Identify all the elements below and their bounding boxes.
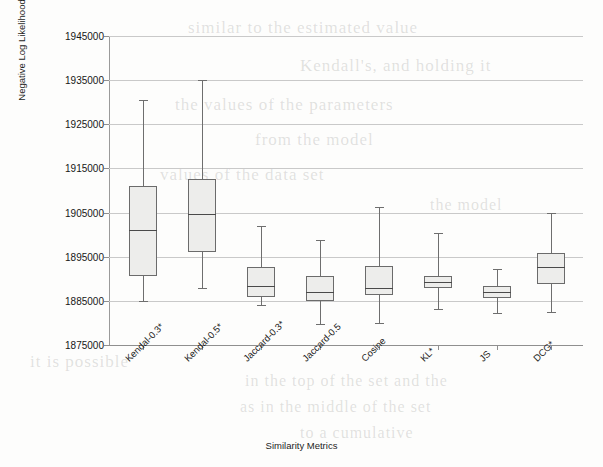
whisker-cap-lower [139, 301, 148, 302]
box-iqr-rect [247, 267, 275, 297]
box-iqr-rect [365, 266, 393, 295]
whisker-lower [551, 284, 552, 312]
x-axis-category-label: JS [477, 348, 493, 364]
whisker-upper [551, 213, 552, 253]
gridline [109, 80, 583, 81]
whisker-cap-lower [547, 312, 556, 313]
y-axis-tick-label: 1885000 [32, 295, 104, 306]
whisker-cap-upper [493, 269, 502, 270]
y-axis-tick-label: 1925000 [32, 119, 104, 130]
x-axis-category-label: Jaccard-0.5 [300, 321, 343, 364]
x-axis-category-label: Kendal-0.5* [182, 321, 225, 364]
whisker-cap-lower [493, 313, 502, 314]
gridline [109, 124, 583, 125]
whisker-cap-upper [257, 226, 266, 227]
x-axis-category-label: Cosine [359, 335, 388, 364]
y-axis-tick-mark [104, 345, 109, 346]
x-axis-tick-mark [497, 346, 498, 350]
box-median-line [306, 292, 334, 293]
whisker-cap-upper [198, 80, 207, 81]
y-axis-tick-label: 1875000 [32, 340, 104, 351]
whisker-lower [438, 288, 439, 309]
whisker-upper [143, 100, 144, 186]
figure-page: similar to the estimated valueKendall's,… [0, 0, 603, 467]
x-axis-tick-mark [438, 346, 439, 350]
gridline [109, 345, 583, 346]
x-axis-category-label: KL* [418, 345, 437, 364]
whisker-lower [143, 276, 144, 301]
box-median-line [247, 286, 275, 287]
y-axis-tick-mark [104, 301, 109, 302]
whisker-upper [438, 233, 439, 276]
box-iqr-rect [129, 186, 157, 276]
box-median-line [188, 214, 216, 215]
gridline [109, 36, 583, 37]
y-axis-tick-labels: 1945000193500019250001915000190500018950… [30, 0, 104, 467]
gridline [109, 301, 583, 302]
y-axis-tick-mark [104, 168, 109, 169]
y-axis-line [109, 36, 110, 346]
whisker-cap-lower [257, 305, 266, 306]
whisker-lower [202, 252, 203, 288]
whisker-upper [202, 80, 203, 179]
whisker-cap-lower [198, 288, 207, 289]
whisker-cap-lower [375, 323, 384, 324]
y-axis-tick-label: 1905000 [32, 207, 104, 218]
box-median-line [129, 230, 157, 231]
whisker-cap-upper [316, 240, 325, 241]
box-median-line [483, 292, 511, 293]
box-median-line [537, 267, 565, 268]
y-axis-tick-mark [104, 213, 109, 214]
gridline [109, 213, 583, 214]
whisker-upper [497, 269, 498, 286]
y-axis-tick-mark [104, 80, 109, 81]
whisker-cap-upper [547, 213, 556, 214]
y-axis-tick-label: 1895000 [32, 251, 104, 262]
whisker-cap-upper [375, 207, 384, 208]
box-median-line [365, 288, 393, 289]
whisker-upper [379, 207, 380, 266]
whisker-cap-lower [434, 309, 443, 310]
whisker-lower [261, 297, 262, 305]
box-iqr-rect [188, 179, 216, 252]
whisker-lower [379, 295, 380, 323]
whisker-cap-upper [434, 233, 443, 234]
x-axis-category-label: DCG* [531, 338, 556, 363]
box-iqr-rect [537, 253, 565, 284]
x-axis-category-label: Jaccard-0.3* [241, 318, 286, 363]
y-axis-tick-mark [104, 36, 109, 37]
y-axis-title: Negative Log Likelihood [16, 0, 27, 130]
whisker-upper [320, 240, 321, 276]
x-axis-title: Similarity Metrics [0, 440, 603, 451]
y-axis-tick-label: 1935000 [32, 75, 104, 86]
box-iqr-rect [306, 276, 334, 301]
gridline [109, 168, 583, 169]
y-axis-tick-label: 1945000 [32, 31, 104, 42]
gridline [109, 257, 583, 258]
whisker-lower [320, 301, 321, 324]
whisker-lower [497, 298, 498, 313]
whisker-cap-upper [139, 100, 148, 101]
y-axis-tick-label: 1915000 [32, 163, 104, 174]
x-axis-category-label: Kendal-0.3* [123, 321, 166, 364]
whisker-upper [261, 226, 262, 267]
y-axis-tick-mark [104, 257, 109, 258]
box-plot-figure: 1945000193500019250001915000190500018950… [0, 0, 603, 467]
whisker-cap-lower [316, 324, 325, 325]
y-axis-tick-mark [104, 124, 109, 125]
box-median-line [424, 282, 452, 283]
